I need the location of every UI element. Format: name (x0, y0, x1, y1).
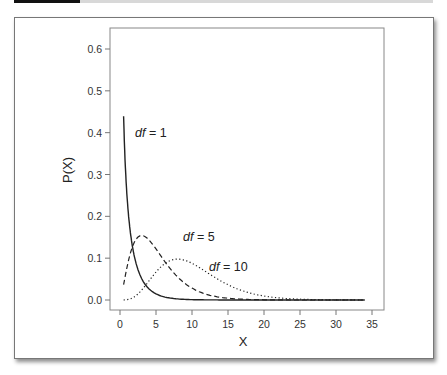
x-tick-label: 30 (330, 318, 342, 330)
y-tick-label: 0.3 (87, 169, 102, 181)
annotation-df5: df = 5 (183, 230, 215, 244)
chart: 0.00.10.20.30.40.50.6 05101520253035 X P… (0, 0, 447, 375)
x-tick-label: 5 (153, 318, 159, 330)
y-tick-label: 0.5 (87, 85, 102, 97)
x-tick-label: 15 (222, 318, 234, 330)
x-tick-label: 25 (294, 318, 306, 330)
y-axis: 0.00.10.20.30.40.50.6 (87, 43, 110, 306)
x-tick-label: 0 (117, 318, 123, 330)
annotation-df10: df = 10 (209, 260, 248, 274)
y-tick-label: 0.1 (87, 252, 102, 264)
x-tick-label: 10 (186, 318, 198, 330)
x-tick-label: 35 (366, 318, 378, 330)
y-tick-label: 0.6 (87, 43, 102, 55)
x-axis: 05101520253035 (117, 310, 378, 330)
annotation-df1: df = 1 (135, 126, 167, 140)
x-axis-title: X (239, 334, 248, 349)
y-tick-label: 0.4 (87, 127, 102, 139)
y-tick-label: 0.0 (87, 294, 102, 306)
y-tick-label: 0.2 (87, 210, 102, 222)
x-tick-label: 20 (258, 318, 270, 330)
y-axis-title: P(X) (60, 157, 75, 183)
